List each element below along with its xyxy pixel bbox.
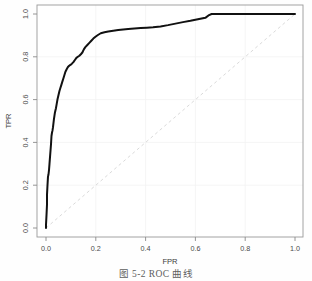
figure-caption: 图 5-2 ROC 曲线 xyxy=(0,268,312,281)
x-tick-labels: 0.0 0.2 0.4 0.6 0.8 1.0 xyxy=(41,244,300,253)
x-tick-label-4: 0.8 xyxy=(240,244,250,253)
x-tick-label-3: 0.6 xyxy=(190,244,200,253)
y-tick-label-5: 1.0 xyxy=(21,9,30,19)
x-tick-label-5: 1.0 xyxy=(290,244,300,253)
y-tick-label-4: 0.8 xyxy=(21,52,30,62)
y-tick-labels: 0.0 0.2 0.4 0.6 0.8 1.0 xyxy=(21,9,30,233)
x-tick-label-0: 0.0 xyxy=(41,244,51,253)
y-tick-label-2: 0.4 xyxy=(21,137,30,147)
y-axis-ticks xyxy=(33,14,37,228)
y-tick-label-0: 0.0 xyxy=(21,223,30,233)
roc-chart: 0.0 0.2 0.4 0.6 0.8 1.0 0.0 0.2 0.4 0.6 … xyxy=(0,0,312,281)
y-tick-label-3: 0.6 xyxy=(21,95,30,105)
roc-figure: 0.0 0.2 0.4 0.6 0.8 1.0 0.0 0.2 0.4 0.6 … xyxy=(0,0,312,281)
x-axis-ticks xyxy=(46,237,295,241)
y-tick-label-1: 0.2 xyxy=(21,180,30,190)
x-axis-title: FPR xyxy=(162,257,178,266)
y-axis-title: TPR xyxy=(4,113,13,129)
x-tick-label-2: 0.4 xyxy=(141,244,151,253)
x-tick-label-1: 0.2 xyxy=(91,244,101,253)
